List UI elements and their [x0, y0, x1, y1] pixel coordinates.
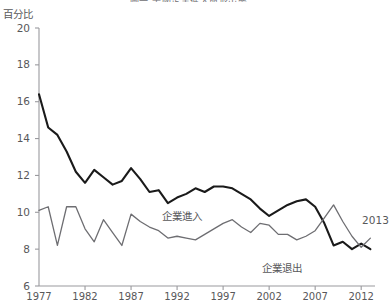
x-axis-tick-label: 2007 [295, 292, 335, 302]
x-axis-tick-label: 1987 [111, 292, 151, 302]
x-axis-tick-label: 1982 [65, 292, 105, 302]
y-axis-tick-label: 16 [6, 96, 30, 107]
x-axis-tick-label: 1992 [157, 292, 197, 302]
series-inline-label: 企業退出 [262, 260, 302, 275]
x-axis-tick-label: 1977 [19, 292, 59, 302]
series-inline-label: 企業進入 [162, 208, 202, 223]
x-axis-tick-label: 1997 [203, 292, 243, 302]
axis-lines [39, 28, 375, 286]
y-axis-tick-label: 12 [6, 170, 30, 181]
y-axis-tick-label: 10 [6, 207, 30, 218]
y-axis-tick-label: 6 [6, 281, 30, 292]
series-line [39, 205, 370, 247]
y-axis-tick-label: 14 [6, 133, 30, 144]
series-line [39, 94, 370, 249]
y-axis-ticks [35, 28, 39, 286]
x-axis-ticks [85, 286, 361, 290]
series-paths [39, 94, 370, 249]
chart-annotation: 2013 [362, 214, 389, 226]
y-axis-tick-label: 18 [6, 59, 30, 70]
y-axis-tick-label: 20 [6, 23, 30, 34]
x-axis-tick-label: 2002 [249, 292, 289, 302]
x-axis-tick-label: 2012 [341, 292, 381, 302]
y-axis-tick-label: 8 [6, 244, 30, 255]
